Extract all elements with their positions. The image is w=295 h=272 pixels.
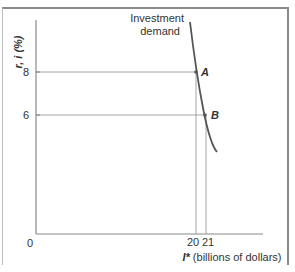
y-tick-label-6: 6: [23, 109, 29, 121]
x-axis-title: I* (billions of dollars): [182, 251, 281, 263]
investment-demand-curve: [190, 22, 217, 152]
point-a-marker: [194, 70, 198, 74]
y-tick-label-8: 8: [23, 66, 29, 78]
y-axis-title: r, i (%): [12, 35, 24, 68]
point-b-marker: [203, 113, 207, 117]
investment-demand-chart: r, i (%) 8 6 0 20 21 I* (billions of dol…: [0, 0, 295, 272]
point-b-label: B: [211, 109, 219, 121]
x-tick-label-20: 20: [187, 236, 199, 248]
x-tick-label-21: 21: [202, 236, 214, 248]
curve-label-line2: demand: [140, 25, 180, 37]
origin-label: 0: [27, 237, 33, 249]
point-a-label: A: [200, 66, 209, 78]
curve-label-line1: Investment: [130, 12, 184, 24]
